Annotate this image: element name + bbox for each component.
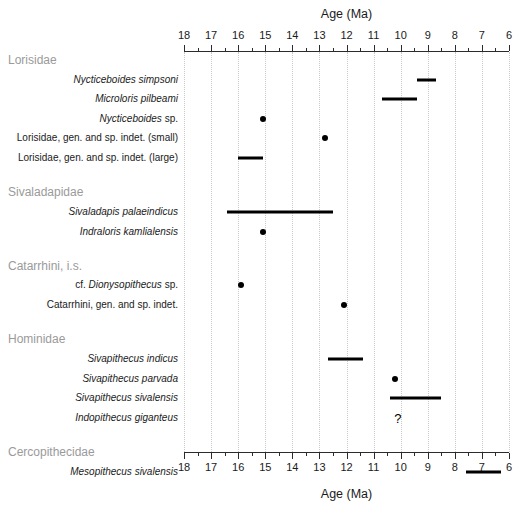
axis-tick-label-top-14: 14 bbox=[279, 29, 305, 41]
axis-tick-bottom-13-5 bbox=[306, 453, 307, 456]
axis-tick-bottom-18 bbox=[184, 453, 185, 459]
range-bar-sivapithecus-indicus bbox=[328, 357, 363, 360]
axis-tick-label-top-9: 9 bbox=[415, 29, 441, 41]
point-mark-lorisidae-gen-and-sp-indet-small bbox=[322, 135, 328, 141]
axis-tick-label-top-12: 12 bbox=[334, 29, 360, 41]
axis-tick-top-7 bbox=[482, 45, 483, 51]
axis-tick-top-14 bbox=[292, 45, 293, 51]
axis-tick-top-15 bbox=[265, 45, 266, 51]
range-bar-sivapithecus-sivalensis bbox=[390, 397, 441, 400]
axis-tick-bottom-15 bbox=[265, 453, 266, 459]
axis-tick-bottom-9 bbox=[428, 453, 429, 459]
axis-tick-label-top-18: 18 bbox=[171, 29, 197, 41]
axis-tick-top-9 bbox=[428, 45, 429, 51]
group-label-sivaladapidae: Sivaladapidae bbox=[8, 186, 83, 199]
axis-tick-top-17 bbox=[211, 45, 212, 51]
axis-tick-bottom-15-5 bbox=[252, 453, 253, 456]
axis-tick-top-8-5 bbox=[441, 48, 442, 51]
gridline-16 bbox=[238, 52, 239, 452]
axis-tick-top-12 bbox=[347, 45, 348, 51]
gridline-14 bbox=[292, 52, 293, 452]
axis-tick-bottom-12-5 bbox=[333, 453, 334, 456]
taxon-label-sivapithecus-parvada: Sivapithecus parvada bbox=[82, 373, 178, 385]
axis-tick-top-18 bbox=[184, 45, 185, 51]
axis-tick-label-top-16: 16 bbox=[225, 29, 251, 41]
group-label-hominidae: Hominidae bbox=[8, 333, 65, 346]
axis-tick-bottom-10 bbox=[401, 453, 402, 459]
axis-tick-bottom-17 bbox=[211, 453, 212, 459]
point-mark-sivapithecus-parvada bbox=[392, 376, 398, 382]
gridline-17 bbox=[211, 52, 212, 452]
taxon-label-cf-dionysopithecus-sp: cf. Dionysopithecus sp. bbox=[75, 279, 178, 291]
gridline-8 bbox=[455, 52, 456, 452]
axis-tick-top-11 bbox=[374, 45, 375, 51]
axis-tick-top-13 bbox=[319, 45, 320, 51]
axis-tick-bottom-8-5 bbox=[441, 453, 442, 456]
axis-tick-label-bottom-14: 14 bbox=[279, 461, 305, 473]
axis-tick-label-bottom-13: 13 bbox=[306, 461, 332, 473]
axis-tick-label-top-6: 6 bbox=[496, 29, 522, 41]
gridline-9 bbox=[428, 52, 429, 452]
axis-tick-label-bottom-8: 8 bbox=[442, 461, 468, 473]
taxon-label-column: LorisidaeNycticeboides simpsoniMicrolori… bbox=[0, 52, 178, 452]
axis-tick-label-top-10: 10 bbox=[388, 29, 414, 41]
axis-tick-label-top-7: 7 bbox=[469, 29, 495, 41]
gridline-6 bbox=[509, 52, 510, 452]
axis-tick-top-12-5 bbox=[333, 48, 334, 51]
point-mark-cf-dionysopithecus-sp bbox=[238, 282, 244, 288]
point-mark-nycticeboides-sp bbox=[260, 116, 266, 122]
axis-tick-top-10 bbox=[401, 45, 402, 51]
query-mark-indopithecus-giganteus: ? bbox=[394, 411, 401, 424]
axis-tick-bottom-8 bbox=[455, 453, 456, 459]
taxon-label-mesopithecus-sivalensis: Mesopithecus sivalensis bbox=[70, 466, 178, 478]
axis-tick-top-11-5 bbox=[360, 48, 361, 51]
range-bar-microloris-pilbeami bbox=[382, 98, 417, 101]
axis-tick-bottom-7 bbox=[482, 453, 483, 459]
axis-tick-top-16 bbox=[238, 45, 239, 51]
point-mark-indraloris-kamlialensis bbox=[260, 229, 266, 235]
group-label-cercopithecidae: Cercopithecidae bbox=[8, 446, 95, 459]
axis-tick-top-14-5 bbox=[279, 48, 280, 51]
taxon-label-lorisidae-gen-and-sp-indet-large: Lorisidae, gen. and sp. indet. (large) bbox=[18, 152, 178, 164]
axis-tick-top-9-5 bbox=[414, 48, 415, 51]
range-bar-lorisidae-gen-and-sp-indet-large bbox=[238, 157, 262, 160]
taxon-label-sivapithecus-sivalensis: Sivapithecus sivalensis bbox=[75, 392, 178, 404]
axis-tick-label-top-8: 8 bbox=[442, 29, 468, 41]
gridline-12 bbox=[347, 52, 348, 452]
gridline-11 bbox=[374, 52, 375, 452]
axis-tick-label-bottom-15: 15 bbox=[252, 461, 278, 473]
axis-tick-bottom-16 bbox=[238, 453, 239, 459]
axis-tick-bottom-11-5 bbox=[360, 453, 361, 456]
axis-tick-label-bottom-9: 9 bbox=[415, 461, 441, 473]
axis-tick-bottom-12 bbox=[347, 453, 348, 459]
axis-tick-top-10-5 bbox=[387, 48, 388, 51]
axis-tick-bottom-6-5 bbox=[495, 453, 496, 456]
range-bar-sivaladapis-palaeindicus bbox=[227, 210, 333, 213]
axis-tick-label-top-11: 11 bbox=[361, 29, 387, 41]
axis-tick-top-15-5 bbox=[252, 48, 253, 51]
gridline-15 bbox=[265, 52, 266, 452]
axis-tick-top-13-5 bbox=[306, 48, 307, 51]
axis-tick-bottom-16-5 bbox=[225, 453, 226, 456]
axis-title-bottom: Age (Ma) bbox=[184, 487, 509, 501]
axis-tick-bottom-6 bbox=[509, 453, 510, 459]
axis-tick-label-top-17: 17 bbox=[198, 29, 224, 41]
axis-tick-bottom-10-5 bbox=[387, 453, 388, 456]
taxon-label-sivaladapis-palaeindicus: Sivaladapis palaeindicus bbox=[68, 206, 178, 218]
range-bar-mesopithecus-sivalensis bbox=[466, 470, 501, 473]
axis-tick-label-top-15: 15 bbox=[252, 29, 278, 41]
axis-tick-top-16-5 bbox=[225, 48, 226, 51]
gridline-18 bbox=[184, 52, 185, 452]
axis-tick-bottom-9-5 bbox=[414, 453, 415, 456]
taxon-label-indopithecus-giganteus: Indopithecus giganteus bbox=[75, 412, 178, 424]
plot-area: ? bbox=[184, 52, 509, 452]
axis-tick-top-6-5 bbox=[495, 48, 496, 51]
axis-tick-label-bottom-10: 10 bbox=[388, 461, 414, 473]
group-label-catarrhini-i-s: Catarrhini, i.s. bbox=[8, 259, 82, 272]
taxon-label-nycticeboides-simpsoni: Nycticeboides simpsoni bbox=[74, 74, 179, 86]
axis-tick-top-7-5 bbox=[468, 48, 469, 51]
axis-tick-bottom-17-5 bbox=[198, 453, 199, 456]
gridline-10 bbox=[401, 52, 402, 452]
group-label-lorisidae: Lorisidae bbox=[8, 54, 57, 67]
taxon-label-nycticeboides-sp: Nycticeboides sp. bbox=[100, 113, 178, 125]
